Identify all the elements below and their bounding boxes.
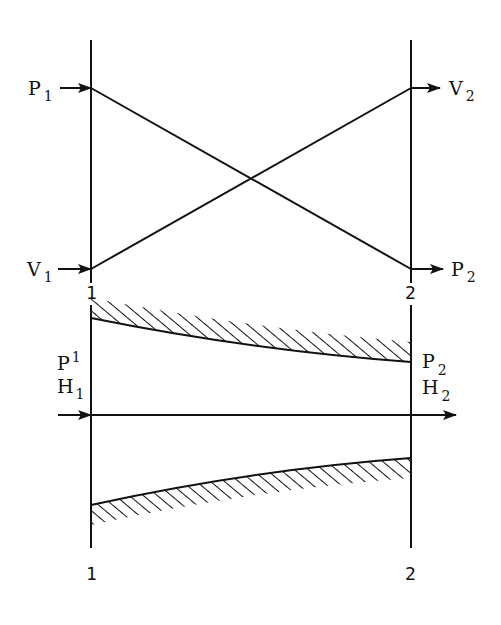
section-2-label-bottom: 2 [405,563,416,584]
section-1-label-bottom: 1 [86,563,97,584]
bottom-panel: P1 H1 P2 H2 1 2 [57,290,456,584]
label-p1-bottom: P1 [57,349,81,374]
label-p2: P2 [451,258,476,285]
label-v2: V2 [448,77,475,104]
top-panel: P1 V1 V2 P2 1 2 [26,40,476,303]
section-2-label-top: 2 [405,282,416,303]
diagram-canvas: P1 V1 V2 P2 1 2 P1 H1 P2 H2 1 2 [0,0,501,625]
label-h1: H1 [57,375,85,402]
label-v1: V1 [26,258,53,285]
label-h2: H2 [422,376,451,404]
label-p2-bottom: P2 [422,350,447,378]
label-p1: P1 [28,77,53,104]
